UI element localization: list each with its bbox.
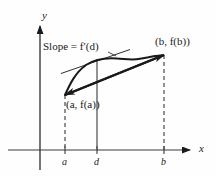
point-b-annotation: (b, f(b)) [155, 36, 190, 47]
tick-label-d: d [94, 157, 99, 167]
x-axis-label: x [199, 143, 204, 154]
point-a-annotation: (a, f(a)) [66, 99, 100, 110]
tick-label-a: a [62, 157, 67, 167]
y-axis-label: y [42, 10, 47, 21]
secant-line-arrow-end [65, 55, 164, 95]
mean-value-theorem-figure: y x a d b Slope = f′(d) (b, f(b)) (a, f(… [0, 0, 216, 176]
tick-label-b: b [161, 157, 166, 167]
figure-canvas [0, 0, 216, 176]
slope-annotation: Slope = f′(d) [43, 41, 99, 52]
